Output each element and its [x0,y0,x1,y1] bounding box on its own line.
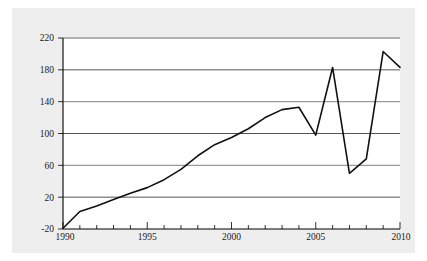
y-tick-label: -20 [41,224,54,234]
y-tick-label: 220 [40,33,55,43]
chart-figure: -202060100140180220 19901995200020052010 [12,8,415,253]
line-chart: -202060100140180220 19901995200020052010 [12,8,415,253]
x-tick-label: 1995 [138,232,157,242]
x-tick-label: 2005 [306,232,325,242]
y-tick-label: 180 [40,65,55,75]
y-tick-label: 60 [45,161,55,171]
y-tick-label: 20 [45,193,55,203]
y-tick-label: 140 [40,97,55,107]
x-tick-label: 2000 [222,232,241,242]
x-tick-label: 2010 [392,232,411,242]
y-tick-label: 100 [40,129,55,139]
x-tick-label: 1990 [56,232,75,242]
